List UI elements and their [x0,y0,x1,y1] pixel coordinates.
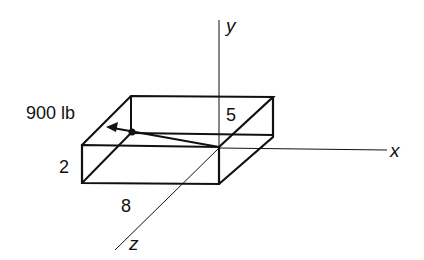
dimension-depth: 5 [226,106,236,124]
x-axis [219,148,387,150]
z-axis-label: z [129,234,139,253]
y-axis-label: y [226,16,236,35]
arrowhead-icon [106,122,118,132]
box-front-face [82,145,219,184]
force-label: 900 lb [26,104,75,122]
x-axis-label: x [390,141,400,160]
force-point [129,129,136,136]
box-diagram [0,0,424,260]
dimension-height: 2 [59,158,69,176]
dimension-length: 8 [121,197,131,215]
